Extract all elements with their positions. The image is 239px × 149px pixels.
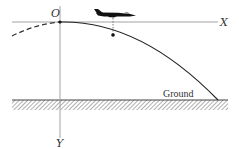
y-axis-label: Y bbox=[56, 137, 65, 149]
trajectory-extension-dashed bbox=[12, 22, 60, 36]
x-axis-label: X bbox=[219, 16, 229, 29]
ground-label: Ground bbox=[163, 88, 194, 99]
origin-point bbox=[58, 20, 61, 23]
projectile-point bbox=[111, 33, 115, 37]
projectile-diagram: O X Y Ground bbox=[0, 0, 239, 149]
ground-hatching bbox=[12, 100, 228, 110]
origin-label: O bbox=[51, 7, 60, 20]
aircraft-icon bbox=[94, 9, 136, 18]
projectile-trajectory bbox=[60, 22, 218, 100]
